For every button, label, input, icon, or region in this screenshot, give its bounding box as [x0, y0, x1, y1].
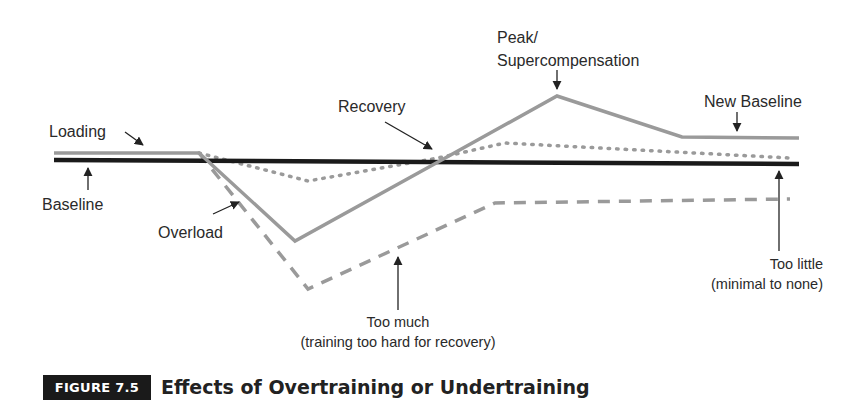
figure-badge: FIGURE 7.5	[43, 375, 151, 400]
overload-arrow	[213, 202, 239, 214]
too-little-label-line1: Too little	[660, 254, 823, 274]
too-little-label-line2: (minimal to none)	[660, 274, 823, 294]
loading-arrow	[125, 132, 143, 145]
peak-label: Peak/ Supercompensation	[497, 26, 639, 72]
new-baseline-label: New Baseline	[704, 92, 802, 111]
too-much-label-line2: (training too hard for recovery)	[280, 332, 516, 352]
figure-title: Effects of Overtraining or Undertraining	[161, 374, 590, 400]
too-much-label: Too much (training too hard for recovery…	[280, 312, 516, 352]
loading-label: Loading	[49, 122, 106, 141]
overload-label: Overload	[158, 223, 223, 242]
baseline-label: Baseline	[42, 195, 103, 214]
baseline-line	[54, 160, 799, 164]
too-much-label-line1: Too much	[280, 312, 516, 332]
peak-label-line1: Peak/	[497, 26, 639, 49]
peak-label-line2: Supercompensation	[497, 49, 639, 72]
too-little-label: Too little (minimal to none)	[660, 254, 823, 294]
recovery-arrow	[385, 122, 432, 149]
optimal-line	[54, 96, 799, 241]
recovery-label: Recovery	[338, 97, 406, 116]
